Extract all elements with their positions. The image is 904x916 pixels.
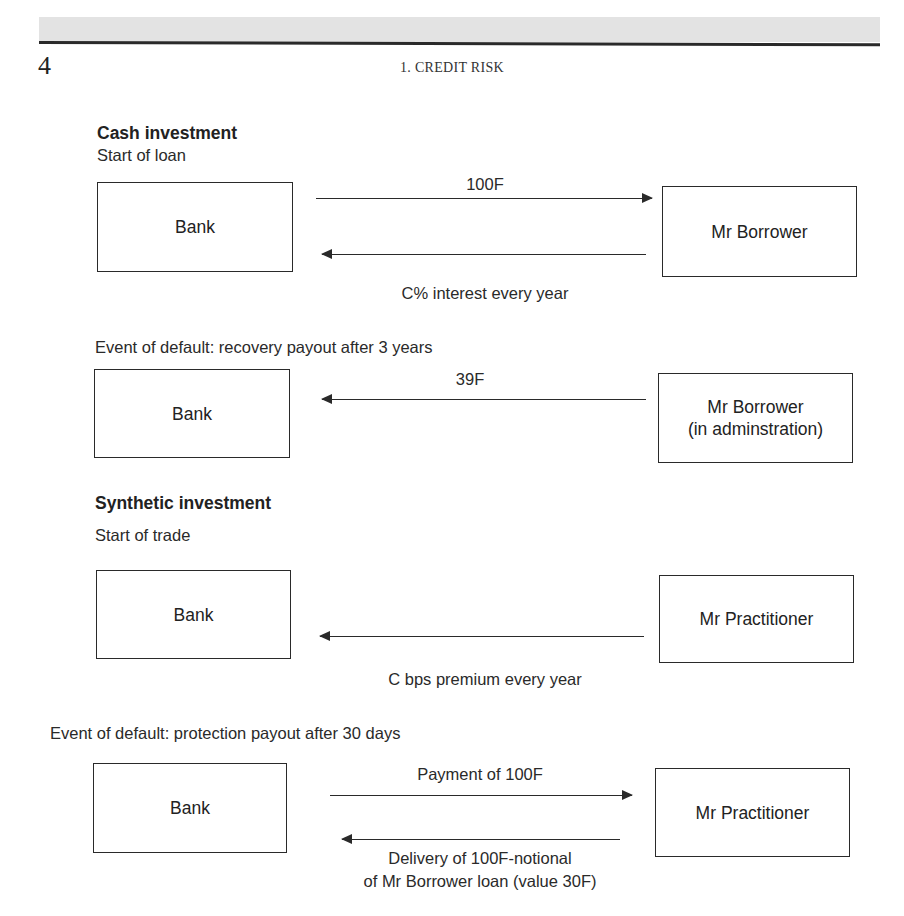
arrow-right-icon — [330, 795, 632, 796]
premium-label: C bps premium every year — [340, 668, 630, 690]
arrow-left-icon — [342, 839, 620, 840]
running-head: 1. CREDIT RISK — [0, 60, 904, 76]
payment-label: Payment of 100F — [380, 763, 580, 785]
cash-start-caption: Start of loan — [97, 146, 186, 165]
arrow-left-icon — [320, 636, 644, 637]
practitioner-label: Mr Practitioner — [696, 802, 810, 824]
loan-amount-label: 100F — [400, 173, 570, 195]
bank-label: Bank — [174, 604, 214, 626]
borrower-label: Mr Borrower — [707, 396, 803, 418]
arrow-left-icon — [322, 399, 646, 400]
practitioner-box: Mr Practitioner — [659, 575, 854, 663]
arrow-left-icon — [322, 254, 646, 255]
synthetic-investment-title: Synthetic investment — [95, 493, 271, 514]
bank-box: Bank — [96, 570, 291, 659]
bank-label: Bank — [172, 403, 212, 425]
borrower-label: Mr Borrower — [711, 221, 807, 243]
bank-box: Bank — [94, 369, 290, 458]
borrower-in-administration-box: Mr Borrower (in adminstration) — [658, 373, 853, 463]
bank-label: Bank — [170, 797, 210, 819]
synthetic-start-caption: Start of trade — [95, 526, 190, 545]
practitioner-label: Mr Practitioner — [700, 608, 814, 630]
delivery-label-line1: Delivery of 100F-notional — [320, 847, 640, 869]
delivery-label-line2: of Mr Borrower loan (value 30F) — [320, 870, 640, 892]
arrow-right-icon — [316, 198, 652, 199]
cash-default-caption: Event of default: recovery payout after … — [95, 338, 433, 357]
interest-label: C% interest every year — [340, 282, 630, 304]
header-bar — [39, 17, 880, 42]
recovery-amount-label: 39F — [420, 368, 520, 390]
cash-investment-title: Cash investment — [97, 123, 237, 144]
synthetic-default-caption: Event of default: protection payout afte… — [50, 724, 400, 743]
practitioner-box: Mr Practitioner — [655, 768, 850, 857]
bank-box: Bank — [93, 763, 287, 853]
bank-box: Bank — [97, 182, 293, 272]
administration-label: (in adminstration) — [688, 418, 823, 440]
borrower-box: Mr Borrower — [662, 186, 857, 277]
bank-label: Bank — [175, 216, 215, 238]
